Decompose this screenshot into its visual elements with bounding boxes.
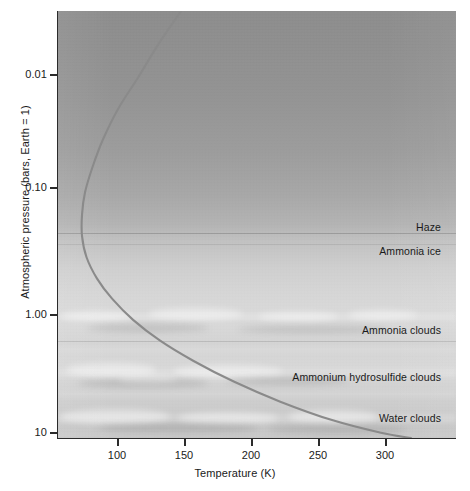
x-tick-mark bbox=[184, 439, 186, 446]
y-tick-mark bbox=[50, 314, 57, 316]
x-tick-label: 200 bbox=[242, 449, 261, 461]
annotation-ammonia-ice: Ammonia ice bbox=[379, 245, 441, 257]
annotation-water-clouds: Water clouds bbox=[379, 412, 441, 424]
x-tick-label: 150 bbox=[175, 449, 194, 461]
x-tick-mark bbox=[117, 439, 119, 446]
x-tick-label: 250 bbox=[309, 449, 328, 461]
y-tick-mark bbox=[50, 74, 57, 76]
y-axis-title: Atmospheric pressure (bars, Earth = 1) bbox=[19, 92, 31, 312]
y-tick-label: 0.01 bbox=[25, 68, 47, 80]
x-tick-mark bbox=[385, 439, 387, 446]
plot-area: Haze Ammonia ice Ammonia clouds Ammonium… bbox=[57, 11, 456, 439]
x-tick-label: 300 bbox=[376, 449, 395, 461]
y-tick-label: 10 bbox=[35, 426, 47, 438]
atmosphere-pressure-temperature-figure: Haze Ammonia ice Ammonia clouds Ammonium… bbox=[0, 0, 470, 491]
x-tick-mark bbox=[318, 439, 320, 446]
x-tick-label: 100 bbox=[108, 449, 127, 461]
annotation-ammonia-clouds: Ammonia clouds bbox=[362, 324, 441, 336]
x-tick-mark bbox=[251, 439, 253, 446]
annotation-ammonium-hydrosulfide-clouds: Ammonium hydrosulfide clouds bbox=[292, 371, 441, 383]
x-axis-title: Temperature (K) bbox=[0, 467, 470, 479]
annotation-haze: Haze bbox=[416, 221, 441, 233]
y-tick-mark bbox=[50, 432, 57, 434]
y-tick-mark bbox=[50, 187, 57, 189]
